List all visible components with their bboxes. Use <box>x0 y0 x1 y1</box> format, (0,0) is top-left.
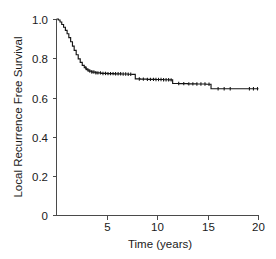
y-tick-label-0.2: 0.2 <box>32 171 48 183</box>
y-axis-tick-labels: 1.0 0.8 0.6 0.4 0.2 0 <box>32 14 49 222</box>
y-tick-label-0.6: 0.6 <box>32 93 48 105</box>
x-tick-label-15: 15 <box>202 221 215 233</box>
x-tick-label-10: 10 <box>151 221 164 233</box>
x-tick-label-20: 20 <box>252 221 265 233</box>
y-tick-label-0.4: 0.4 <box>32 132 49 144</box>
y-tick-label-0.8: 0.8 <box>32 53 48 65</box>
y-tick-label-0: 0 <box>42 210 48 222</box>
x-axis-title: Time (years) <box>128 238 192 250</box>
censoring-marks-group <box>86 66 258 90</box>
survival-plot-canvas: 1.0 0.8 0.6 0.4 0.2 0 5 10 15 20 Time (y… <box>0 0 276 259</box>
y-axis-ticks <box>53 20 57 216</box>
survival-chart-figure: 1.0 0.8 0.6 0.4 0.2 0 5 10 15 20 Time (y… <box>0 0 276 259</box>
y-tick-label-1.0: 1.0 <box>32 14 48 26</box>
x-axis-ticks <box>108 216 259 220</box>
x-axis-tick-labels: 5 10 15 20 <box>104 221 265 233</box>
survival-curve <box>57 19 259 89</box>
x-tick-label-5: 5 <box>104 221 110 233</box>
y-axis-title: Local Recurrence Free Survival <box>12 36 24 197</box>
